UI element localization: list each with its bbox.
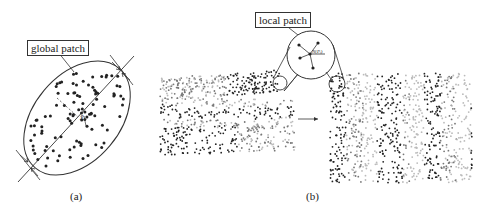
top-arrow2-icon <box>122 73 130 80</box>
connector-cross-line <box>284 74 298 91</box>
figure: global patch x̄ (a) local patch N(Pᵢ) (b… <box>0 0 482 210</box>
transform-arrow-icon <box>314 117 318 121</box>
global-patch-points <box>29 72 124 168</box>
dashed-radius-line <box>57 98 78 117</box>
folded-point-cloud <box>159 70 295 156</box>
panel-a-caption: (a) <box>70 190 82 202</box>
right-patch-circle <box>329 76 345 92</box>
bottom-dimension-tick <box>16 150 40 180</box>
connector-line <box>326 72 331 79</box>
global-patch-label: global patch <box>27 40 89 56</box>
panel-b-diagram <box>159 24 473 184</box>
neighborhood-label: N(Pᵢ) <box>312 49 323 54</box>
unfolded-point-cloud <box>329 73 473 184</box>
top-dimension-tick <box>110 55 133 85</box>
panel-b-caption: (b) <box>306 190 319 202</box>
local-patch-label: local patch <box>255 12 311 28</box>
figure-drawing <box>0 0 482 210</box>
center-symbol: x̄ <box>80 113 84 122</box>
connector-line <box>333 45 344 80</box>
panel-a-diagram <box>2 41 151 196</box>
